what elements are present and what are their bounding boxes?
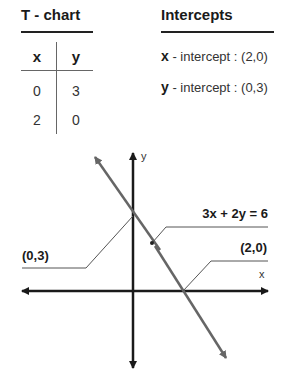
x-axis-label: x: [259, 268, 265, 280]
y-intercept-label: (0,3): [22, 248, 49, 263]
y-axis-label: y: [141, 150, 147, 162]
equation-label: 3x + 2y = 6: [202, 206, 268, 221]
equation-line-lower: [155, 246, 226, 358]
equation-line-upper: [95, 157, 160, 250]
x-intercept-leader: [183, 261, 268, 291]
graph: [0, 0, 283, 383]
x-intercept-label: (2,0): [240, 240, 267, 255]
equation-point: [150, 241, 154, 245]
